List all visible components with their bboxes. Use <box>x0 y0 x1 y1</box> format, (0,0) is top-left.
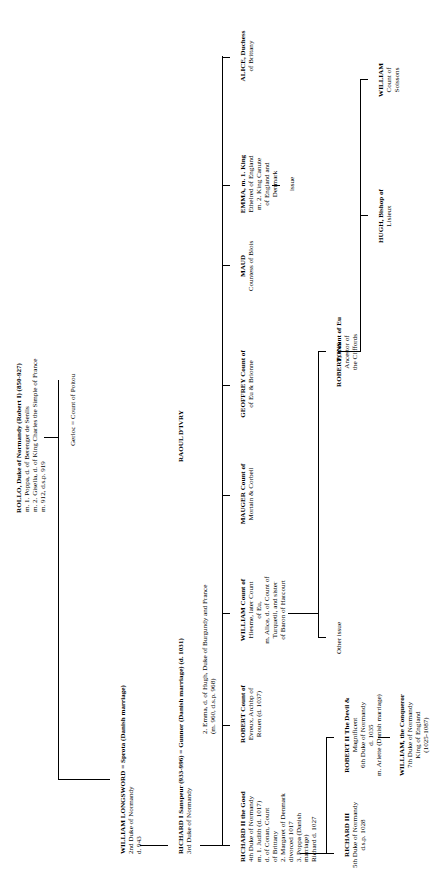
node-gerloc-name: Gerloc = Count of Poitou <box>69 374 77 446</box>
node-emma-issue: issue <box>281 152 297 216</box>
node-robert-ii-name: ROBERT II The Devil & <box>343 697 351 773</box>
tick-robert-ii <box>326 737 334 738</box>
tick-william-soissons <box>360 79 368 80</box>
node-other-issue-label: Other issue <box>335 622 343 654</box>
node-rollo-lines: m. 1. Poppa, d. of Berenger de Senlis m.… <box>24 334 48 542</box>
tick-maud <box>222 265 230 266</box>
line-richard-ii-children <box>326 738 327 854</box>
node-emma-issue-label: issue <box>288 177 296 191</box>
node-other-issue: Other issue <box>328 596 344 680</box>
node-robert-evreux-name: ROBERT Count of <box>239 685 247 743</box>
genealogy-chart: ROLLO, Duke of Normandy (Robert I) (850-… <box>0 0 432 876</box>
node-robert-evreux: ROBERT Count of Evreux, Archbp of Rouen … <box>232 664 272 764</box>
node-william-conqueror-lines: 7th Duke of Normandy King of England (10… <box>407 676 431 794</box>
node-geoffrey-name: GEOFFREY Count of <box>239 350 247 418</box>
node-emma-name: EMMA, m. 1. King <box>239 155 247 213</box>
line-to-longsword <box>58 779 110 780</box>
tick-robert-eu <box>318 351 326 352</box>
node-richard-iii-name: RICHARD III <box>343 813 351 857</box>
node-gerloc: Gerloc = Count of Poitou <box>62 306 78 446</box>
node-robert-ii: ROBERT II The Devil & Magnificent 6th Du… <box>336 676 392 794</box>
node-geoffrey-lines: of Eu & Brionne <box>248 332 256 436</box>
line-richard-i-stem <box>200 845 222 846</box>
line-rollo-stem <box>44 437 58 438</box>
tick-geoffrey <box>222 385 230 386</box>
node-pons: PONS Ancestor of the Cliffords <box>328 310 368 394</box>
node-hugh-name: HUGH, Bishop of <box>377 189 385 243</box>
node-richard-i-name: RICHARD I Sanspeur (933-996) = Gunnor (D… <box>177 638 185 854</box>
node-mauger-lines: Mortain & Corbeil <box>248 444 256 544</box>
node-pons-name: PONS <box>335 343 343 362</box>
line-to-conqueror <box>378 737 390 738</box>
node-rollo: ROLLO, Duke of Normandy (Robert I) (850-… <box>8 334 56 542</box>
tick-robert-evreux <box>222 725 230 726</box>
node-william-longsword-lines: 2nd Duke of Normandy d. 943 <box>128 624 144 854</box>
node-william-longsword: WILLIAM LONGSWORD = Sprota (Danish marri… <box>112 624 152 854</box>
tick-other-issue <box>318 637 326 638</box>
tick-emma <box>222 185 230 186</box>
node-richard-i: RICHARD I Sanspeur (933-996) = Gunnor (D… <box>170 554 226 854</box>
tick-alice <box>222 57 230 58</box>
node-rollo-name: ROLLO, Duke of Normandy (Robert I) (850-… <box>15 363 23 513</box>
tick-richard-ii <box>222 845 230 846</box>
node-mauger-name: MAUGER Count of <box>239 464 247 525</box>
node-richard-i-second: 2. Emma, d. of Hugh, Duke of Burgundy an… <box>202 554 218 854</box>
node-emma-lines: Ethelred of England m. 2. King Canute of… <box>248 136 280 232</box>
node-raoul-name: RAOUL D'IVRY <box>177 410 185 462</box>
node-richard-ii-name: RICHARD II the Good <box>239 791 247 862</box>
node-hugh: HUGH, Bishop of Lisieux <box>370 164 402 268</box>
node-maud: MAUD Countess of Blois <box>232 218 264 314</box>
node-william-soissons-lines: Count of Soissons <box>386 32 402 128</box>
line-hiesme-stem <box>288 613 318 614</box>
node-maud-lines: Countess of Blois <box>248 218 256 314</box>
tick-hugh <box>360 215 368 216</box>
tick-william-hiesme <box>222 613 230 614</box>
node-william-soissons-name: WILLIAM <box>377 63 385 97</box>
node-william-hiesme: WILLIAM Count of Hiesme, later Count of … <box>232 558 296 662</box>
line-emma-issue <box>272 185 280 186</box>
node-william-hiesme-name: WILLIAM Count of <box>239 579 247 641</box>
node-william-soissons: WILLIAM Count of Soissons <box>370 32 410 128</box>
node-richard-i-lines: 3rd Duke of Normandy <box>186 554 194 854</box>
line-richard-i-children <box>222 56 223 846</box>
tick-richard-iii <box>326 853 334 854</box>
tick-mauger <box>222 495 230 496</box>
node-raoul: RAOUL D'IVRY <box>170 376 186 496</box>
node-william-longsword-name: WILLIAM LONGSWORD = Sprota (Danish marri… <box>119 685 127 854</box>
line-hiesme-children <box>318 352 319 638</box>
node-mauger: MAUGER Count of Mortain & Corbeil <box>232 444 264 544</box>
node-emma: EMMA, m. 1. King Ethelred of England m. … <box>232 136 288 232</box>
line-to-richard-i <box>140 845 168 846</box>
node-hugh-lines: Lisieux <box>386 164 394 268</box>
line-rollo-children <box>58 380 59 780</box>
node-alice: ALICE, Duchess of Brittany <box>232 8 264 104</box>
node-alice-lines: of Brittany <box>248 8 256 104</box>
node-pons-lines: Ancestor of the Cliffords <box>344 310 360 394</box>
line-richard-ii-stem <box>300 853 326 854</box>
node-geoffrey: GEOFFREY Count of of Eu & Brionne <box>232 332 264 436</box>
node-william-hiesme-lines: Hiesme, later Count of Eu, m. Alice, d. … <box>248 558 288 662</box>
node-robert-ii-lines: Magnificent 6th Duke of Normandy d. 1035… <box>352 676 384 794</box>
node-william-conqueror: WILLIAM, the Conqueror 7th Duke of Norma… <box>391 676 432 794</box>
node-william-conqueror-name: WILLIAM, the Conqueror <box>398 694 406 776</box>
node-alice-name: ALICE, Duchess <box>239 31 247 82</box>
node-robert-evreux-lines: Evreux, Archbp of Rouen (d. 1037) <box>248 664 264 764</box>
node-maud-name: MAUD <box>239 255 247 277</box>
